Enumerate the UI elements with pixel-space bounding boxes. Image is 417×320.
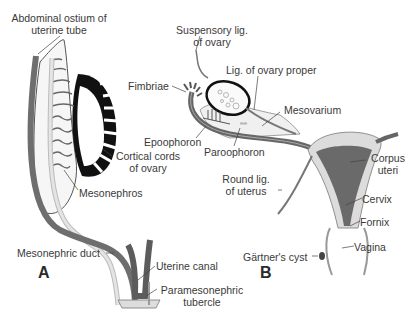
label-line: Cortical cords xyxy=(108,150,188,162)
label-vagina: Vagina xyxy=(354,241,386,253)
diagram-canvas: ∞∞ xyxy=(0,0,417,320)
label-gartners-cyst: Gärtner's cyst xyxy=(243,251,307,263)
label-fornix: Fornix xyxy=(360,216,389,228)
label-line: Round lig. xyxy=(214,173,278,185)
label-suspensory-lig: Suspensory lig. of ovary xyxy=(172,24,252,48)
label-paroophoron: Paroophoron xyxy=(204,146,265,158)
paroophoron-shape: ∞∞ xyxy=(240,120,248,126)
label-mesonephros: Mesonephros xyxy=(79,187,143,199)
label-line: Abdominal ostium of xyxy=(4,12,114,24)
label-line: of uterus xyxy=(214,185,278,197)
label-paramesonephric-tubercle: Paramesonephric tubercle xyxy=(156,284,248,308)
label-line: tubercle xyxy=(156,296,248,308)
label-line: of ovary xyxy=(108,162,188,174)
label-round-lig: Round lig. of uterus xyxy=(214,173,278,197)
label-cortical-cords: Cortical cords of ovary xyxy=(108,150,188,174)
label-line: Suspensory lig. xyxy=(172,24,252,36)
label-line: uterine tube xyxy=(4,24,114,36)
label-cervix: Cervix xyxy=(362,193,392,205)
label-epoophoron: Epoophoron xyxy=(144,136,201,148)
label-line: uteri xyxy=(366,164,410,176)
label-line: Paramesonephric xyxy=(156,284,248,296)
panel-label-b: B xyxy=(260,264,272,282)
gartners-cyst-shape xyxy=(319,252,325,260)
panel-label-a: A xyxy=(38,264,50,282)
label-line: Corpus xyxy=(366,152,410,164)
label-mesovarium: Mesovarium xyxy=(284,104,341,116)
label-corpus-uteri: Corpus uteri xyxy=(366,152,410,176)
label-uterine-canal: Uterine canal xyxy=(156,260,218,272)
label-abdominal-ostium: Abdominal ostium of uterine tube xyxy=(4,12,114,36)
label-line: of ovary xyxy=(172,36,252,48)
label-fimbriae: Fimbriae xyxy=(128,80,169,92)
label-mesonephric-duct: Mesonephric duct xyxy=(17,247,100,259)
paramesonephric-tubercle-shape xyxy=(118,300,160,308)
label-lig-ovary-proper: Lig. of ovary proper xyxy=(226,64,316,76)
